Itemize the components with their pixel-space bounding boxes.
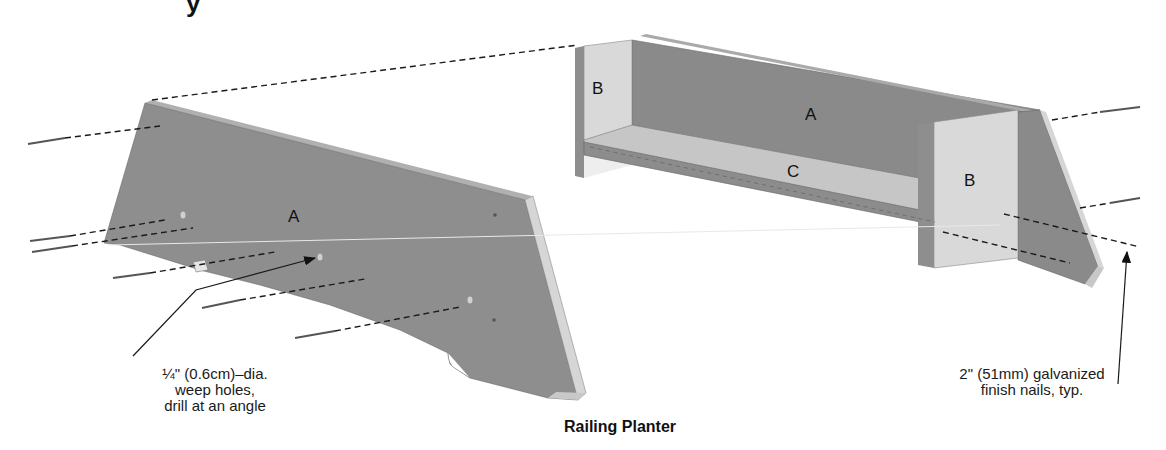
part-label-b-left: B	[592, 79, 603, 98]
nails-note: 2" (51mm) galvanized finish nails, typ.	[912, 366, 1152, 398]
nail-leader	[1118, 252, 1127, 384]
part-label-a-left: A	[288, 207, 300, 226]
weep-holes-note-line-1: ¼" (0.6cm)–dia.	[150, 366, 280, 382]
nails-note-line-2: finish nails, typ.	[912, 382, 1152, 398]
part-label-b-right: B	[964, 171, 975, 190]
part-label-c: C	[787, 162, 799, 181]
weep-holes-note-line-3: drill at an angle	[150, 398, 280, 414]
part-label-a-back: A	[805, 105, 817, 124]
diagram-caption: Railing Planter	[500, 418, 740, 436]
weep-holes-note: ¼" (0.6cm)–dia. weep holes, drill at an …	[150, 366, 280, 414]
nails-note-line-1: 2" (51mm) galvanized	[912, 366, 1152, 382]
left-side-panel: A	[104, 100, 586, 400]
weep-holes-note-line-2: weep holes,	[150, 382, 280, 398]
